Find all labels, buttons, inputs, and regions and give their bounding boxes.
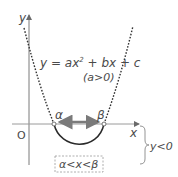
equation-main: y = ax: [39, 56, 80, 70]
condition-label: (a>0): [83, 71, 115, 84]
parabola-solid-part: [54, 124, 104, 144]
beta-root-point: [102, 122, 106, 126]
origin-label: O: [17, 129, 26, 142]
equation-label: y = ax2 + bx + c (a>0): [39, 56, 141, 84]
alpha-label: α: [55, 108, 63, 122]
x-axis-label: x: [129, 126, 138, 140]
brace-label: y<0: [149, 140, 173, 153]
solution-text: α<x<β: [59, 158, 98, 171]
equation-rest: + bx + c: [84, 56, 141, 70]
solution-box: α<x<β: [55, 156, 103, 172]
alpha-root-point: [52, 122, 56, 126]
right-brace: [140, 126, 149, 164]
beta-label: β: [96, 108, 105, 122]
y-axis-label: y: [18, 11, 27, 25]
parabola-dashed-part: [24, 26, 133, 124]
svg-text:y = ax2 + bx + c: y = ax2 + bx + c: [39, 56, 141, 70]
quadratic-inequality-diagram: y x O α β y = ax2 + bx + c (a>0): [0, 0, 178, 177]
